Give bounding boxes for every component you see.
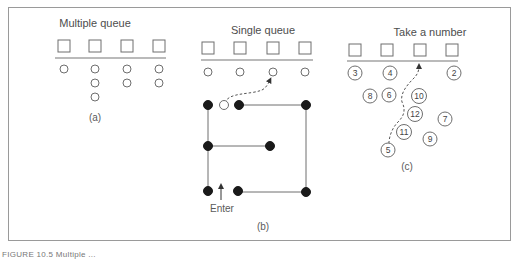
customer xyxy=(91,65,99,73)
ticket-11: 11 xyxy=(400,128,409,137)
panel-c-take-a-number xyxy=(347,44,461,157)
ticket-3: 3 xyxy=(353,69,358,78)
ticket-8: 8 xyxy=(368,92,373,101)
server-box xyxy=(89,40,101,52)
panel-a-multiple-queue xyxy=(55,40,166,101)
queue-post xyxy=(204,187,213,196)
customer xyxy=(204,68,212,76)
figure-caption: FIGURE 10.5 Multiple ... xyxy=(2,250,96,259)
ticket-7: 7 xyxy=(443,115,448,124)
ticket-12: 12 xyxy=(410,110,419,119)
server-box xyxy=(414,44,426,56)
server-box xyxy=(299,42,311,54)
queue-post xyxy=(204,101,213,110)
panel-b-single-queue xyxy=(201,42,313,200)
server-box xyxy=(381,44,393,56)
ticket-2: 2 xyxy=(452,69,457,78)
customer xyxy=(155,65,163,73)
server-box xyxy=(153,40,165,52)
customer xyxy=(155,79,163,87)
server-box xyxy=(446,44,458,56)
server-box xyxy=(202,42,214,54)
queue-post xyxy=(266,142,275,151)
ticket-9: 9 xyxy=(428,135,433,144)
ticket-4: 4 xyxy=(388,69,393,78)
ticket-10: 10 xyxy=(414,92,423,101)
customer xyxy=(123,65,131,73)
queue-post xyxy=(302,101,311,110)
customer xyxy=(60,65,68,73)
server-box xyxy=(58,40,70,52)
queue-post xyxy=(235,101,244,110)
ticket-circles xyxy=(348,66,461,157)
ticket-6: 6 xyxy=(387,91,392,100)
queue-diagram xyxy=(0,0,516,259)
queue-post xyxy=(204,142,213,151)
customer xyxy=(91,79,99,87)
customer xyxy=(301,68,309,76)
customer xyxy=(269,68,277,76)
server-box xyxy=(121,40,133,52)
server-box xyxy=(234,42,246,54)
customer xyxy=(91,93,99,101)
customer xyxy=(123,79,131,87)
server-box xyxy=(349,44,361,56)
customer-moving xyxy=(220,101,229,110)
queue-post xyxy=(302,188,311,197)
server-box xyxy=(267,42,279,54)
ticket-5: 5 xyxy=(386,146,391,155)
customer xyxy=(236,68,244,76)
queue-post xyxy=(234,187,243,196)
